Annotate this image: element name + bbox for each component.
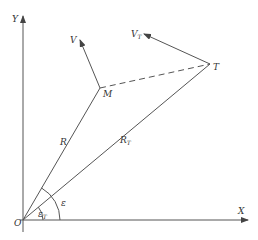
diagram-canvas: Y X O M T V VT R RT εT ε	[0, 0, 258, 240]
target-velocity-label: VT	[131, 29, 143, 40]
missile-velocity-label: V	[70, 35, 78, 45]
point-t-label: T	[213, 62, 220, 72]
target-angle-label: εT	[38, 209, 48, 220]
line-of-sight-dashed	[100, 64, 210, 88]
y-axis-label: Y	[12, 14, 19, 24]
missile-velocity-vector	[80, 40, 100, 88]
missile-angle-label: ε	[61, 198, 66, 208]
point-m-label: M	[102, 89, 113, 99]
origin-label: O	[14, 218, 22, 228]
missile-range-label: R	[59, 137, 67, 147]
x-axis-label: X	[237, 206, 245, 216]
target-range-label: RT	[119, 135, 132, 146]
target-velocity-vector	[144, 34, 210, 64]
